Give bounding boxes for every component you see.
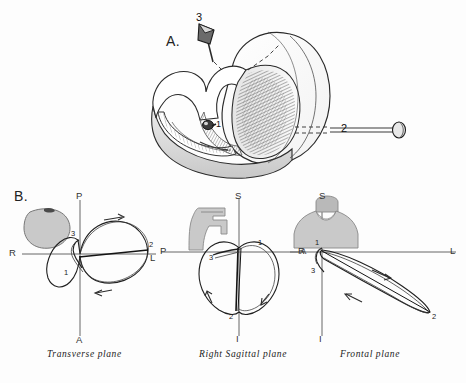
frontal-axis-label-r: R [298,245,305,256]
marker-pin-3 [198,24,214,62]
transverse-axis-label-r: R [9,247,16,258]
transverse-axis-label-a: A [76,334,82,345]
marker-pin-1 [203,120,217,129]
panel-a-marker-label-1: 1 [216,119,221,129]
panel-a-marker-label-3: 3 [196,11,202,23]
sagittal-point-2: 2 [229,312,233,321]
plane-panel-frontal: S I R L 1 2 3 [290,190,466,350]
panel-a-marker-label-2: 2 [341,122,347,134]
sagittal-axis-label-i: I [236,333,239,344]
frontal-point-2: 2 [432,312,436,321]
transverse-point-2: 2 [149,240,153,249]
sagittal-axis-label-p: P [160,245,166,256]
sagittal-point-1: 1 [258,238,262,247]
frontal-axis-label-l: L [450,245,455,256]
frontal-point-1: 1 [315,238,319,247]
caption-frontal-plane: Frontal plane [340,349,400,359]
transverse-point-3: 3 [71,229,75,238]
frontal-axis-label-s: S [319,190,325,201]
sagittal-point-3: 3 [209,253,213,262]
frontal-qrs-loop [315,248,430,313]
transverse-section-silhouette [24,208,70,248]
lateral-torso-silhouette [189,208,227,250]
plane-panel-transverse: P A R L 3 2 1 [0,190,160,350]
frontal-plot [290,190,466,350]
transverse-point-1: 1 [64,268,68,277]
caption-right-sagittal-plane: Right Sagittal plane [199,349,287,359]
panel-a-heart-model [0,0,466,190]
figure-canvas: A. [0,0,466,383]
anterior-torso-silhouette [294,196,358,248]
frontal-point-3: 3 [311,266,315,275]
transverse-axis-label-p: P [76,190,82,201]
transverse-plot [0,190,160,350]
sagittal-axis-label-s: S [235,190,241,201]
caption-transverse-plane: Transverse plane [47,349,122,359]
frontal-axis-label-i: I [319,333,322,344]
